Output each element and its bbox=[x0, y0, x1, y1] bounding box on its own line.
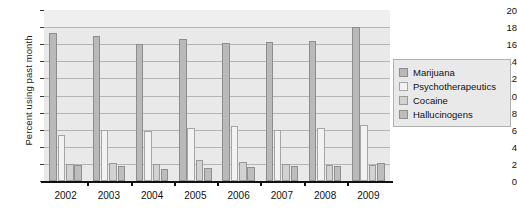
bar bbox=[153, 164, 161, 181]
legend-swatch-icon bbox=[399, 82, 408, 91]
x-tick-mark bbox=[347, 181, 349, 186]
legend-label: Cocaine bbox=[413, 95, 448, 106]
bar-group bbox=[304, 10, 347, 181]
bar bbox=[282, 164, 290, 181]
bar bbox=[360, 125, 368, 181]
bar bbox=[352, 27, 360, 181]
legend-label: Psychotherapeutics bbox=[413, 81, 496, 92]
bar-group bbox=[174, 10, 217, 181]
bar bbox=[247, 167, 255, 181]
bar bbox=[222, 43, 230, 182]
bar bbox=[266, 42, 274, 181]
bar bbox=[66, 164, 74, 181]
bar bbox=[161, 169, 169, 181]
bar bbox=[187, 128, 195, 181]
bar-group bbox=[44, 10, 87, 181]
legend-swatch-icon bbox=[399, 68, 408, 77]
x-tick-mark bbox=[217, 181, 219, 186]
bar-group bbox=[87, 10, 130, 181]
legend-swatch-icon bbox=[399, 96, 408, 105]
y-tick-label: 20 bbox=[479, 5, 517, 16]
bar bbox=[144, 131, 152, 181]
bar bbox=[291, 166, 299, 181]
bar bbox=[179, 39, 187, 181]
x-tick-mark bbox=[304, 181, 306, 186]
bar bbox=[58, 135, 66, 181]
y-tick-label: 2 bbox=[479, 158, 517, 169]
plot-area bbox=[44, 10, 390, 181]
bar-group bbox=[217, 10, 260, 181]
legend-label: Marijuana bbox=[413, 67, 455, 78]
y-axis-title: Percent using past month bbox=[23, 1, 34, 181]
bar bbox=[204, 168, 212, 181]
legend-item[interactable]: Psychotherapeutics bbox=[399, 79, 506, 93]
x-tick-label: 2009 bbox=[343, 190, 393, 201]
bar bbox=[231, 126, 239, 181]
bar-group bbox=[260, 10, 303, 181]
y-tick-label: 18 bbox=[479, 22, 517, 33]
x-tick-mark bbox=[131, 181, 133, 186]
bar bbox=[274, 130, 282, 181]
bar bbox=[309, 41, 317, 181]
legend-item[interactable]: Cocaine bbox=[399, 93, 506, 107]
x-tick-mark bbox=[87, 181, 89, 186]
bar bbox=[101, 130, 109, 181]
legend-item[interactable]: Marijuana bbox=[399, 65, 506, 79]
y-tick-label: 16 bbox=[479, 39, 517, 50]
bar-group bbox=[131, 10, 174, 181]
legend-item[interactable]: Hallucinogens bbox=[399, 107, 506, 121]
bar bbox=[239, 162, 247, 181]
chart-legend: MarijuanaPsychotherapeuticsCocaineHalluc… bbox=[393, 59, 511, 127]
bar bbox=[109, 163, 117, 181]
legend-swatch-icon bbox=[399, 110, 408, 119]
bar bbox=[334, 166, 342, 181]
bar bbox=[93, 36, 101, 181]
bar bbox=[49, 33, 57, 181]
y-tick-label: 4 bbox=[479, 141, 517, 152]
legend-label: Hallucinogens bbox=[413, 109, 473, 120]
bar bbox=[136, 44, 144, 181]
bar bbox=[369, 165, 377, 181]
y-tick-label: 0 bbox=[479, 176, 517, 187]
bar bbox=[317, 128, 325, 181]
bar bbox=[118, 166, 126, 181]
bar bbox=[326, 165, 334, 181]
bar bbox=[377, 163, 385, 181]
x-tick-mark bbox=[174, 181, 176, 186]
bar-chart-figure: Percent using past month 024681012141618… bbox=[0, 0, 517, 210]
x-tick-mark bbox=[260, 181, 262, 186]
bar bbox=[196, 160, 204, 181]
bar-group bbox=[347, 10, 390, 181]
bar bbox=[74, 165, 82, 181]
